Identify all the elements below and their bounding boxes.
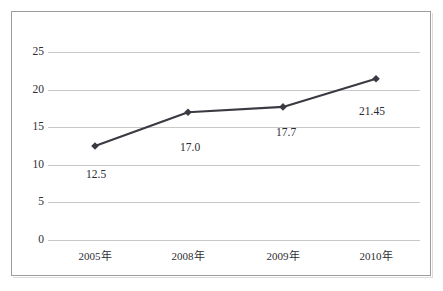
x-axis-tick-2010: 2010年 <box>331 250 421 262</box>
series-line-group <box>0 0 443 291</box>
data-label-2008: 17.0 <box>180 141 200 153</box>
x-axis-tick-2008: 2008年 <box>143 250 233 262</box>
data-point-marker-2010 <box>372 75 380 83</box>
data-point-marker-2009 <box>279 103 287 111</box>
x-axis-tick-2005: 2005年 <box>50 250 140 262</box>
series-line <box>95 79 376 146</box>
data-label-2009: 17.7 <box>276 126 296 138</box>
data-label-2005: 12.5 <box>86 168 106 180</box>
x-axis-tick-2009: 2009年 <box>238 250 328 262</box>
plot-area: 25 20 15 10 5 0 12.5 17.0 17.7 21.45 200… <box>0 0 443 291</box>
data-point-marker-2008 <box>184 108 192 116</box>
data-label-2010: 21.45 <box>359 105 385 117</box>
line-chart-figure: 25 20 15 10 5 0 12.5 17.0 17.7 21.45 200… <box>0 0 443 291</box>
data-point-marker-2005 <box>91 142 99 150</box>
